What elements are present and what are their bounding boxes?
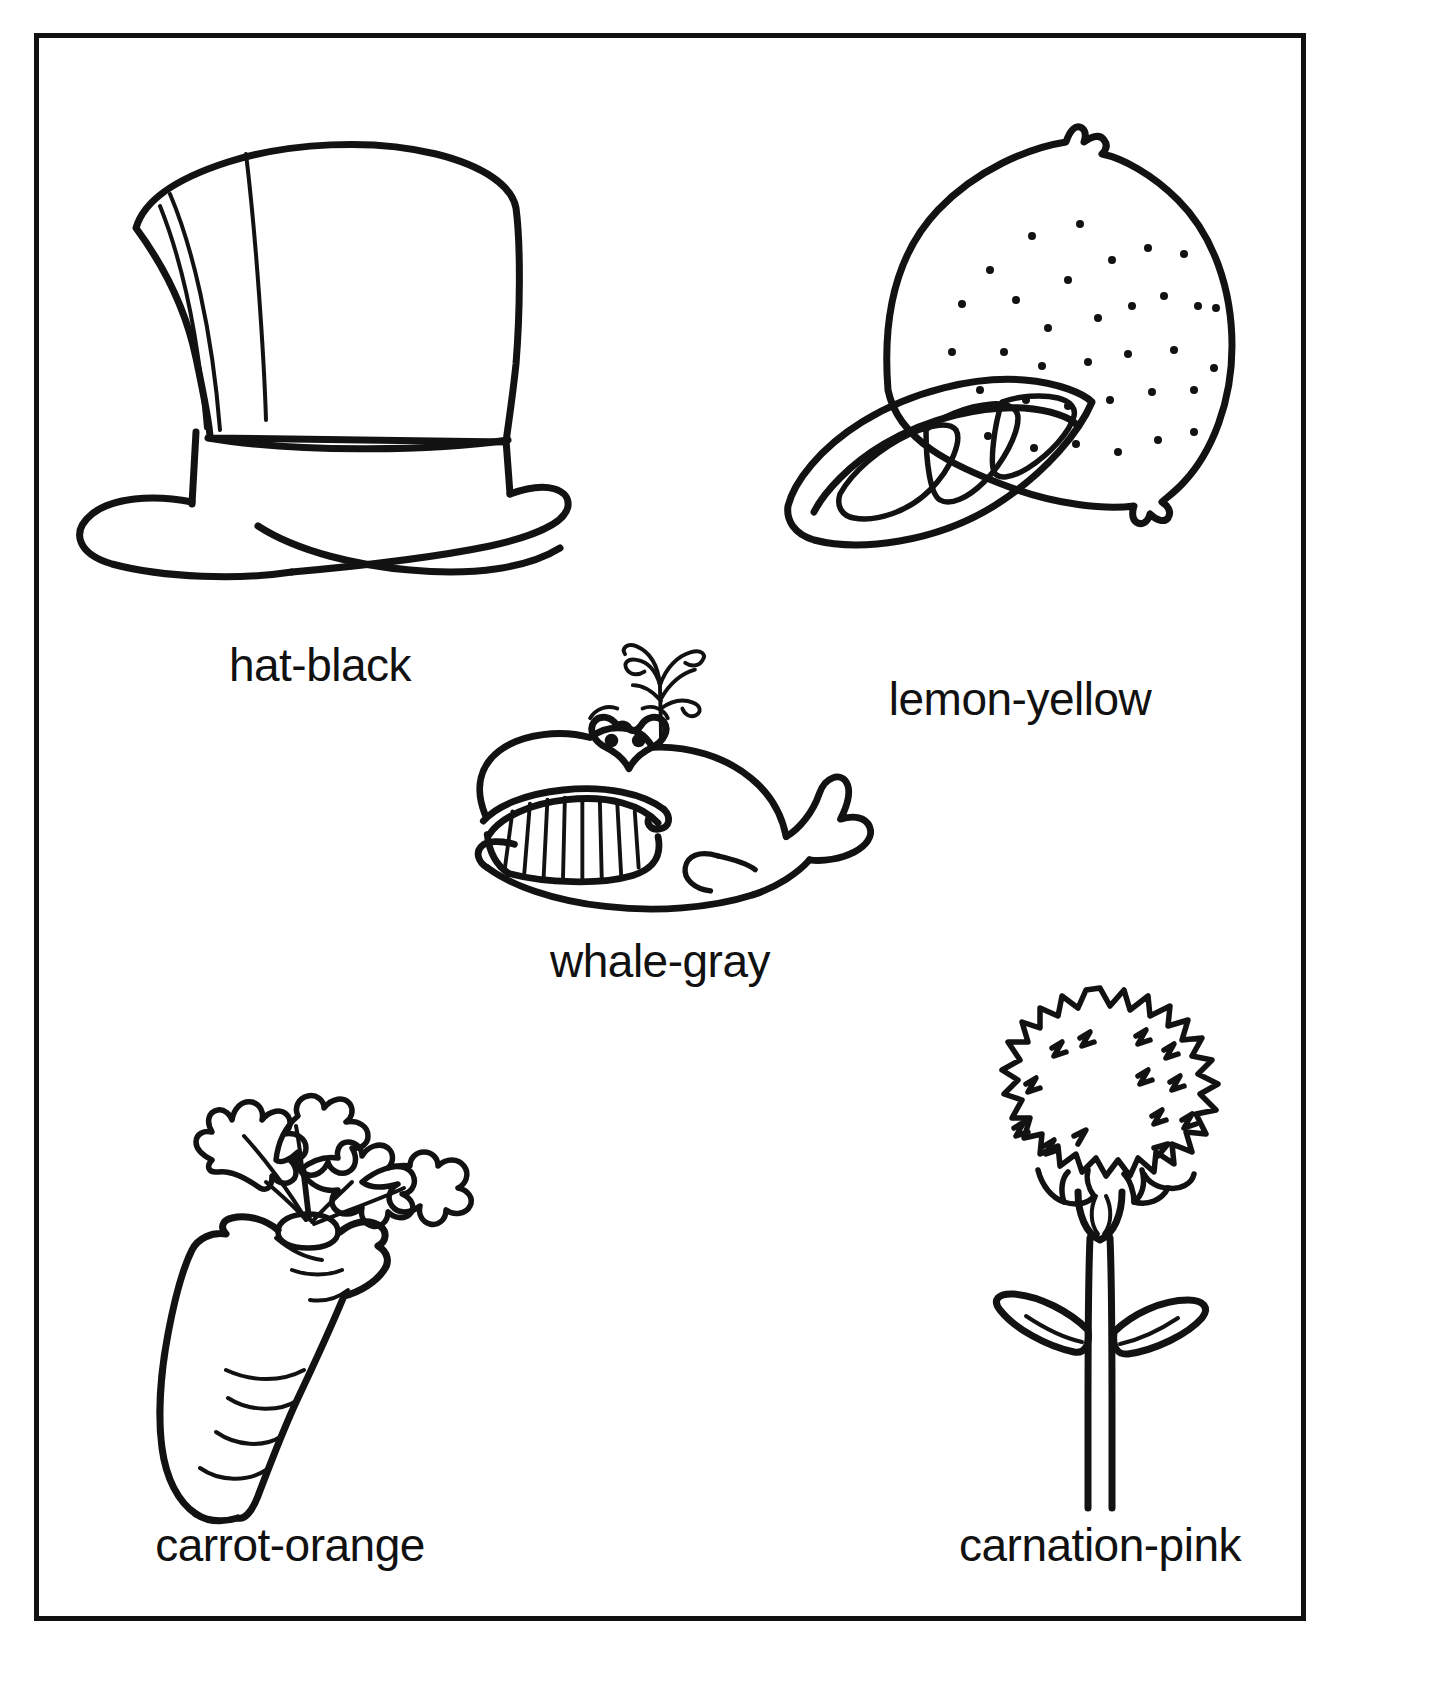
figure-carnation: carnation-pink [930,980,1270,1620]
carnation-flower-icon [930,980,1270,1510]
whale-icon [420,592,900,922]
figure-caption-carnation: carnation-pink [930,1518,1270,1572]
figure-caption-whale: whale-gray [420,934,900,988]
carrot-icon [100,920,480,1520]
figure-whale: whale-gray [420,592,900,992]
lemon-icon [780,100,1260,570]
worksheet-page: hat-black [0,0,1440,1688]
top-hat-icon [60,96,580,536]
figure-carrot: carrot-orange [100,920,480,1620]
figure-lemon: lemon-yellow [780,100,1260,640]
figure-hat: hat-black [60,96,580,616]
figure-caption-carrot: carrot-orange [100,1518,480,1572]
